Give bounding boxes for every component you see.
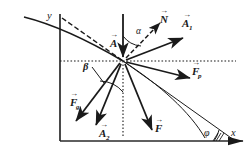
x-axis-label: x	[230, 127, 236, 138]
vector-A1-subscript: 1	[189, 24, 193, 32]
alpha-angle-label: α	[136, 26, 142, 36]
vector-F-letter: F	[154, 122, 163, 134]
vector-F	[125, 64, 152, 130]
vector-Fp-subscript: p	[197, 72, 202, 80]
vector-A2-subscript: 2	[105, 134, 110, 142]
vector-Fg-subscript: g	[75, 103, 80, 111]
vector-A-letter: A	[109, 37, 117, 49]
vector-force-diagram: y x → A → N → A 1 → F p → F → A 2 → F g …	[0, 0, 250, 160]
phi-angle-label: φ	[204, 127, 210, 138]
vector-arrows	[76, 14, 190, 130]
vector-label-F: → F	[154, 115, 163, 134]
y-axis-label: y	[46, 10, 52, 21]
beta-leader-line	[92, 67, 104, 83]
vector-label-N: → N	[159, 6, 169, 25]
vector-label-A: → A	[109, 30, 118, 49]
vector-label-A2: → A 2	[98, 120, 110, 142]
vector-A1	[126, 38, 183, 60]
trajectory-curve	[24, 17, 123, 61]
vector-A2	[96, 64, 121, 125]
axis-group	[60, 14, 243, 141]
beta-angle-label: β	[82, 61, 89, 72]
vector-N-letter: N	[159, 13, 169, 25]
vector-label-A1: → A 1	[181, 10, 193, 32]
vector-label-Fg: → F g	[69, 89, 80, 111]
